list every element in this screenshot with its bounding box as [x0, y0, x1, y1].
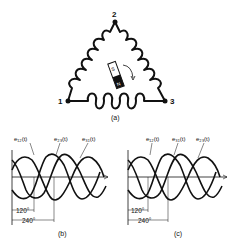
coil-2-3 — [115, 22, 165, 101]
caption-b: (b) — [58, 230, 67, 238]
wave-label-b-2: e₂₃(t) — [54, 136, 68, 142]
wave-label-c-3: e₂₃(t) — [196, 136, 210, 142]
node-1-dot — [66, 99, 71, 104]
node-3-dot — [163, 99, 168, 104]
caption-a: (a) — [111, 114, 120, 122]
dim-240-c: 240° — [138, 217, 152, 224]
three-phase-diagram: 1 2 3 S N (a) e₁₂(t) e₂₃(t) e₃₁(t) 120° … — [0, 0, 237, 250]
node-1-label: 1 — [58, 97, 63, 106]
node-3-label: 3 — [170, 97, 175, 106]
dim-240-b: 240° — [22, 217, 36, 224]
wave-label-b-3: e₃₁(t) — [82, 136, 95, 142]
wave-label-c-1: e₁₂(t) — [146, 136, 159, 142]
dim-120-c: 120° — [131, 207, 145, 214]
wave-label-c-2: e₃₁(t) — [172, 136, 185, 142]
caption-c: (c) — [174, 230, 182, 238]
rotation-arrow-icon — [123, 65, 133, 78]
node-2-label: 2 — [112, 10, 117, 19]
dim-120-b: 120° — [16, 207, 30, 214]
wave-label-b-1: e₁₂(t) — [14, 136, 27, 142]
bar-magnet-icon: S N — [108, 61, 124, 88]
node-2-dot — [113, 20, 118, 25]
waveform-plot-b: e₁₂(t) e₂₃(t) e₃₁(t) 120° 240° (b) — [12, 136, 108, 238]
coil-1-2 — [68, 22, 115, 101]
coil-3-1 — [68, 94, 165, 109]
waveform-plot-c: e₁₂(t) e₃₁(t) e₂₃(t) 120° 240° (c) — [128, 136, 227, 238]
